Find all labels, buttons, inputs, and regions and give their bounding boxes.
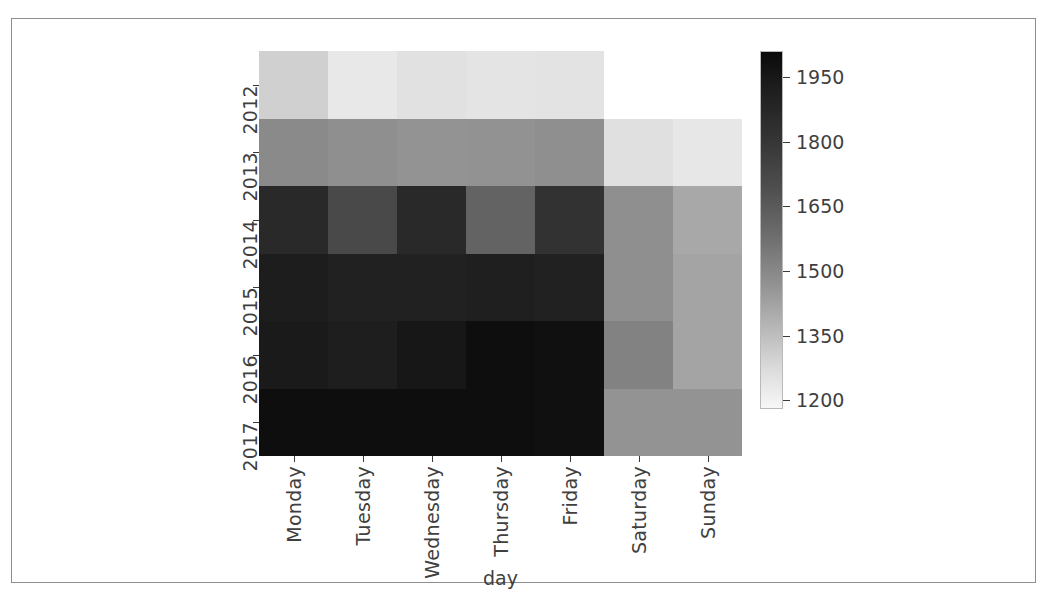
x-tick-mark [363,456,364,462]
figure-frame: 201220132014201520162017 MondayTuesdayWe… [11,18,1036,583]
heatmap-cell [673,51,742,119]
heatmap-cell [328,254,397,322]
heatmap-cell [535,321,604,389]
colorbar-tick-label: 1650 [796,195,844,217]
heatmap-cell [466,119,535,187]
heatmap-cell [673,119,742,187]
y-tick-label: 2016 [239,355,261,405]
heatmap-cell [259,321,328,389]
heatmap-cell [328,321,397,389]
y-tick-label: 2012 [239,85,261,135]
x-tick-label: Saturday [628,466,650,554]
heatmap-cell [604,389,673,457]
colorbar-tick-label: 1800 [796,131,844,153]
x-tick-label: Friday [559,466,581,525]
heatmap-cell [397,119,466,187]
colorbar-tick-label: 1500 [796,260,844,282]
x-tick-mark [432,456,433,462]
heatmap-cell [535,254,604,322]
colorbar-gradient [760,51,783,409]
y-tick-label: 2017 [239,422,261,472]
heatmap-cell [604,51,673,119]
y-tick-label: 2014 [239,220,261,270]
x-tick-mark [708,456,709,462]
heatmap-cell [397,186,466,254]
colorbar-tick-mark [783,142,790,143]
heatmap-cell [328,51,397,119]
heatmap-cell [397,254,466,322]
x-tick-label: Monday [283,466,305,543]
heatmap-grid [259,51,742,456]
colorbar-tick-label: 1950 [796,66,844,88]
heatmap-cell [535,389,604,457]
colorbar-tick-mark [783,400,790,401]
heatmap-cell [604,186,673,254]
heatmap-cell [604,321,673,389]
x-tick-mark [294,456,295,462]
heatmap-cell [535,51,604,119]
x-axis-label: day [259,567,742,589]
x-tick-label: Sunday [697,466,719,539]
heatmap-cell [259,389,328,457]
heatmap-cell [466,389,535,457]
y-tick-label: 2013 [239,152,261,202]
x-tick-label: Tuesday [352,466,374,545]
heatmap-cell [259,119,328,187]
colorbar-tick-mark [783,206,790,207]
x-tick-label: Thursday [490,466,512,557]
heatmap-cell [673,186,742,254]
x-tick-mark [639,456,640,462]
heatmap-cell [604,254,673,322]
heatmap-cell [397,321,466,389]
heatmap-cell [328,186,397,254]
heatmap-cell [466,321,535,389]
heatmap-cell [328,389,397,457]
heatmap-cell [259,186,328,254]
y-tick-label: 2015 [239,287,261,337]
heatmap-cell [466,254,535,322]
heatmap-cell [466,186,535,254]
heatmap-cell [466,51,535,119]
x-tick-label: Wednesday [421,466,443,579]
colorbar: 195018001650150013501200 [760,51,783,409]
colorbar-tick-mark [783,271,790,272]
heatmap-cell [328,119,397,187]
heatmap-cell [673,389,742,457]
heatmap-cell [673,321,742,389]
colorbar-tick-label: 1200 [796,389,844,411]
colorbar-tick-label: 1350 [796,325,844,347]
heatmap-cell [535,119,604,187]
x-tick-mark [570,456,571,462]
colorbar-tick-mark [783,77,790,78]
x-tick-mark [501,456,502,462]
heatmap-cell [259,51,328,119]
heatmap-cell [259,254,328,322]
heatmap-cell [397,51,466,119]
heatmap-cell [673,254,742,322]
heatmap-cell [604,119,673,187]
colorbar-tick-mark [783,336,790,337]
heatmap-plot-area [259,51,742,456]
heatmap-cell [397,389,466,457]
heatmap-cell [535,186,604,254]
